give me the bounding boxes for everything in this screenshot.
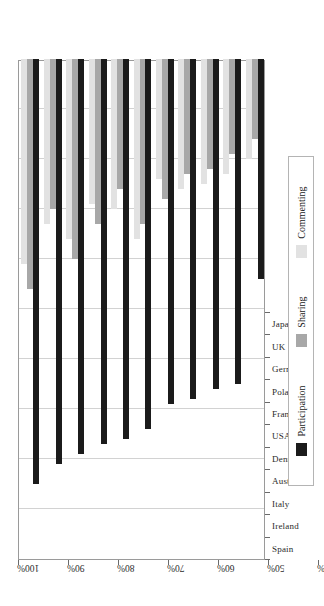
legend-swatch-participation — [296, 443, 307, 456]
value-label: 70% — [167, 563, 184, 573]
value-label: 90% — [67, 563, 84, 573]
bar-group — [199, 61, 221, 559]
legend-label-participation: Participation — [296, 385, 307, 436]
value-label: 100% — [17, 563, 39, 573]
bar-participation — [33, 59, 39, 484]
bar-group — [131, 61, 153, 559]
bar-participation — [145, 59, 151, 429]
category-label: Spain — [272, 544, 294, 554]
category-tick — [265, 492, 270, 493]
bar-group — [86, 61, 108, 559]
bar-group — [19, 61, 41, 559]
legend-swatch-sharing — [296, 334, 307, 347]
bar-group — [176, 61, 198, 559]
category-label: Ireland — [272, 521, 299, 531]
bar-group — [244, 61, 266, 559]
value-label: 40% — [317, 563, 324, 573]
bar-participation — [235, 59, 241, 384]
bar-participation — [78, 59, 84, 454]
bar-chart-figure: SpainIrelandItalyAustraliaDenmarkUSAFran… — [0, 0, 324, 606]
category-tick — [265, 312, 270, 313]
value-label: 60% — [217, 563, 234, 573]
bar-participation — [190, 59, 196, 399]
category-label: UK — [272, 342, 285, 352]
value-label: 80% — [117, 563, 134, 573]
bar-group — [221, 61, 243, 559]
bar-group — [109, 61, 131, 559]
bar-participation — [213, 59, 219, 389]
category-label: Italy — [272, 499, 290, 509]
bar-participation — [258, 59, 264, 279]
category-tick — [265, 447, 270, 448]
bar-group — [64, 61, 86, 559]
plot-area — [18, 60, 265, 560]
category-tick — [265, 379, 270, 380]
category-tick — [265, 424, 270, 425]
bar-participation — [101, 59, 107, 444]
category-tick — [265, 402, 270, 403]
legend-swatch-commenting — [296, 245, 307, 258]
category-tick — [265, 357, 270, 358]
plot-frame — [18, 60, 265, 560]
category-tick — [265, 537, 270, 538]
legend-item-sharing: Sharing — [296, 297, 307, 347]
chart-page: SpainIrelandItalyAustraliaDenmarkUSAFran… — [0, 0, 324, 606]
value-label: 50% — [267, 563, 284, 573]
category-tick — [265, 469, 270, 470]
chart-legend: Participation Sharing Commenting — [288, 156, 314, 486]
category-tick — [265, 334, 270, 335]
legend-label-sharing: Sharing — [296, 297, 307, 328]
category-tick — [265, 514, 270, 515]
legend-label-commenting: Commenting — [296, 186, 307, 238]
value-axis: 100%90%80%70%60%50%40%30%20%10%0% — [18, 560, 265, 606]
bar-participation — [168, 59, 174, 404]
legend-item-participation: Participation — [296, 385, 307, 455]
bar-participation — [56, 59, 62, 464]
legend-item-commenting: Commenting — [296, 186, 307, 257]
bar-group — [41, 61, 63, 559]
bar-participation — [123, 59, 129, 439]
bar-group — [154, 61, 176, 559]
